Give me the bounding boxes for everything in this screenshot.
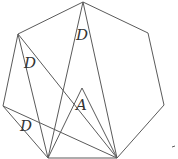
segment	[83, 2, 117, 158]
tick-mark	[172, 146, 175, 147]
segment	[82, 88, 117, 158]
geometry-diagram: D D A D	[0, 0, 178, 159]
label-d-top: D	[75, 26, 88, 44]
label-d-left: D	[19, 117, 32, 135]
label-d-left-top: D	[23, 54, 36, 72]
label-a: A	[74, 96, 87, 114]
